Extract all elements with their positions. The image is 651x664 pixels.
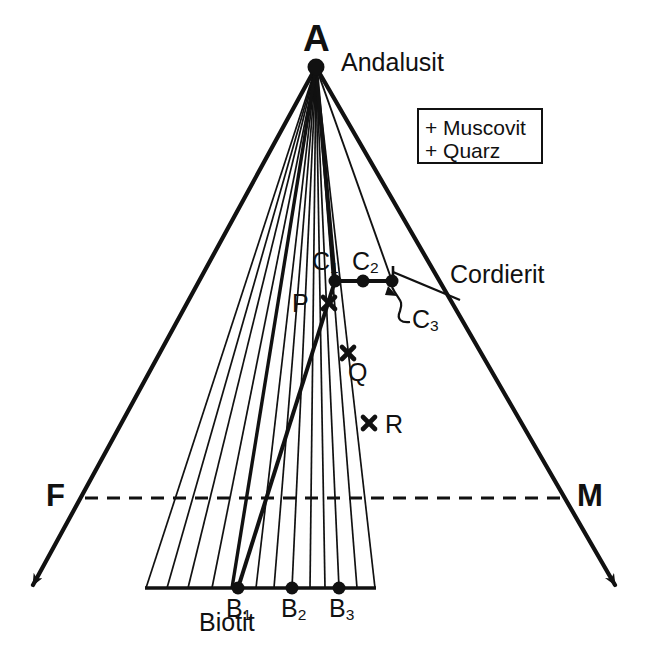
corner-label-f: F [46, 480, 65, 511]
tie-line [167, 67, 316, 588]
b2-dot [286, 582, 299, 595]
excess-phases-legend: + Muscovit + Quarz [417, 108, 543, 164]
b3-dot [333, 582, 346, 595]
apex-label-a: A [303, 20, 329, 57]
marker-r-cross [363, 417, 375, 429]
b2-label-text: B [281, 594, 298, 622]
b2-label: B2 [281, 596, 306, 623]
sample-label-p: P [292, 291, 309, 316]
c3-label: C3 [412, 307, 439, 334]
corner-label-m: M [577, 480, 603, 511]
legend-item-muscovit: + Muscovit [425, 117, 526, 138]
tie-line-fan [146, 67, 375, 588]
b1-dot [232, 582, 245, 595]
sample-label-q: Q [348, 360, 367, 385]
c3-label-sub: 3 [430, 317, 439, 334]
c1-label-sub: 1 [330, 259, 339, 276]
b1-label-sub: 1 [243, 606, 252, 623]
afm-diagram: A Andalusit F M Cordierit Biotit C1 C2 C… [0, 0, 651, 664]
tie-line [256, 67, 316, 588]
c1-label-text: C [312, 247, 330, 275]
c2-label-text: C [352, 247, 370, 275]
tie-line [188, 67, 316, 588]
c3-leader-line [392, 287, 410, 322]
c3-label-text: C [412, 305, 430, 333]
c3-dot [386, 275, 399, 288]
c2-label-sub: 2 [370, 259, 379, 276]
cordierit-label: Cordierit [450, 262, 544, 287]
andalusit-label: Andalusit [341, 50, 444, 75]
b1-label: B1 [226, 596, 251, 623]
b3-label-sub: 3 [346, 606, 355, 623]
diagram-canvas [0, 0, 651, 664]
b1-label-text: B [226, 594, 243, 622]
b2-label-sub: 2 [298, 606, 307, 623]
c2-dot [357, 275, 370, 288]
c2-label: C2 [352, 249, 379, 276]
c1-label: C1 [312, 249, 339, 276]
b3-label-text: B [329, 594, 346, 622]
sample-label-r: R [385, 412, 403, 437]
c1-dot [329, 275, 342, 288]
apex-dot-a [308, 59, 325, 76]
b3-label: B3 [329, 596, 354, 623]
legend-item-quarz: + Quarz [425, 140, 500, 161]
